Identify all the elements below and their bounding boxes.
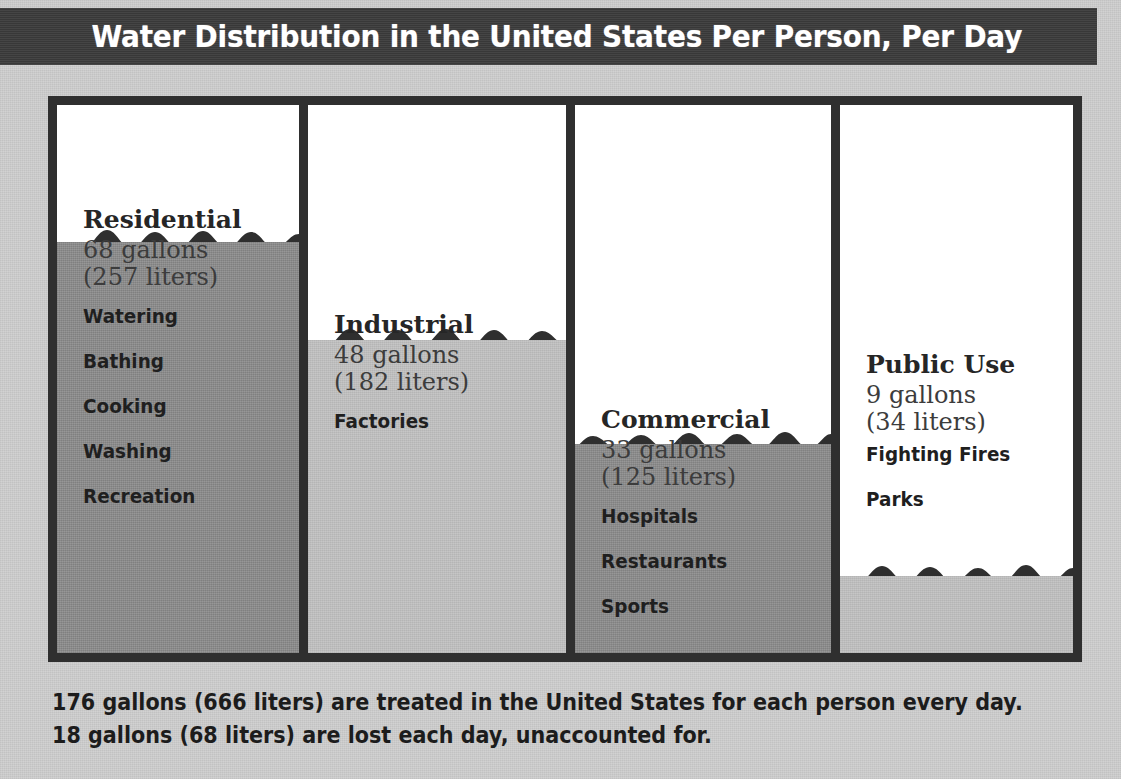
column-public-use[interactable]: Public Use 9 gallons (34 liters) Fightin… (840, 105, 1073, 653)
footer-notes: 176 gallons (666 liters) are treated in … (52, 686, 1082, 751)
use-item: Restaurants (601, 549, 813, 573)
page-title: Water Distribution in the United States … (75, 19, 1022, 54)
use-item: Fighting Fires (866, 442, 1056, 466)
column-industrial[interactable]: Industrial 48 gallons (182 liters) Facto… (308, 105, 566, 653)
category-name: Industrial (334, 310, 566, 339)
category-liters: (125 liters) (601, 464, 831, 491)
labels-commercial: Commercial 33 gallons (125 liters) Hospi… (575, 405, 831, 639)
footer-line-2: 18 gallons (68 liters) are lost each day… (52, 719, 979, 752)
category-gallons: 48 gallons (334, 342, 566, 369)
use-item: Bathing (83, 349, 282, 373)
labels-residential: Residential 68 gallons (257 liters) Wate… (57, 205, 299, 529)
use-item: Parks (866, 487, 1056, 511)
category-liters: (257 liters) (83, 264, 299, 291)
category-liters: (34 liters) (866, 409, 1073, 436)
uses-list: Hospitals Restaurants Sports (601, 504, 831, 618)
infographic-page: Water Distribution in the United States … (0, 0, 1121, 779)
footer-line-1: 176 gallons (666 liters) are treated in … (52, 686, 979, 719)
column-commercial[interactable]: Commercial 33 gallons (125 liters) Hospi… (575, 105, 831, 653)
chart-frame: Residential 68 gallons (257 liters) Wate… (48, 96, 1082, 662)
title-bar: Water Distribution in the United States … (0, 8, 1097, 65)
labels-public-use: Public Use 9 gallons (34 liters) Fightin… (840, 350, 1073, 532)
use-item: Sports (601, 594, 813, 618)
column-divider (566, 105, 575, 653)
category-name: Public Use (866, 350, 1073, 379)
column-divider (831, 105, 840, 653)
column-divider (299, 105, 308, 653)
use-item: Washing (83, 439, 282, 463)
use-item: Watering (83, 304, 282, 328)
labels-industrial: Industrial 48 gallons (182 liters) Facto… (308, 310, 566, 454)
uses-list: Factories (334, 409, 566, 433)
use-item: Factories (334, 409, 547, 433)
column-residential[interactable]: Residential 68 gallons (257 liters) Wate… (57, 105, 299, 653)
use-item: Hospitals (601, 504, 813, 528)
category-liters: (182 liters) (334, 369, 566, 396)
category-gallons: 33 gallons (601, 437, 831, 464)
category-name: Commercial (601, 405, 831, 434)
uses-list: Fighting Fires Parks (866, 442, 1073, 511)
water-fill-public-use (840, 560, 1073, 653)
use-item: Recreation (83, 484, 282, 508)
category-gallons: 68 gallons (83, 237, 299, 264)
columns-container: Residential 68 gallons (257 liters) Wate… (57, 105, 1073, 653)
use-item: Cooking (83, 394, 282, 418)
category-name: Residential (83, 205, 299, 234)
water-body (840, 576, 1073, 653)
uses-list: Watering Bathing Cooking Washing Recreat… (83, 304, 299, 508)
category-gallons: 9 gallons (866, 382, 1073, 409)
